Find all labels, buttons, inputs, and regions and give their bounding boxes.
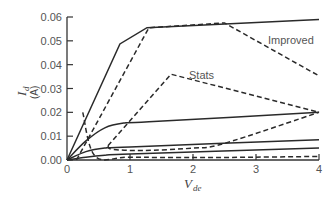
y-tick-label: 0.03 [41,83,62,95]
x-axis-label-sub: de [193,183,202,193]
annotation-stats: Stats [189,69,215,81]
x-tick-label: 4 [316,163,322,175]
y-axis-label-unit: (A) [29,86,40,99]
y-tick-label: 0.05 [41,35,62,47]
x-tick-label: 2 [190,163,196,175]
x-tick-label: 0 [64,163,70,175]
y-axis-label: I d (A) [14,86,40,99]
y-tick-label: 0.00 [41,154,62,166]
chart: 0.000.010.020.030.040.050.0601234 Improv… [0,0,332,201]
x-axis-label: V de [184,176,202,193]
series-stats [108,74,319,146]
x-tick-label: 3 [253,163,259,175]
y-tick-label: 0.04 [41,59,62,71]
annotation-improved: Improved [268,34,314,46]
series-solid-mid [67,112,319,160]
x-tick-label: 1 [127,163,133,175]
y-tick-label: 0.02 [41,106,62,118]
y-tick-label: 0.01 [41,130,62,142]
y-tick-label: 0.06 [41,11,62,23]
